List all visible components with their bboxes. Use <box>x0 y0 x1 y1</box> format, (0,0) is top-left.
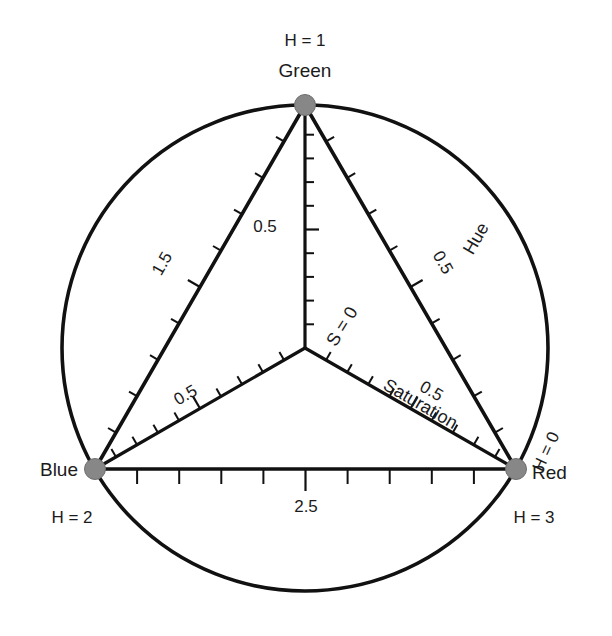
ticks-hue-blue-red <box>137 469 474 491</box>
tick-label-green-red-edge: 0.5 <box>429 248 457 278</box>
saturation-axis-label: Saturation <box>380 375 461 433</box>
vertex-dot-red <box>506 459 527 480</box>
tick-label-center-blue-axis: 0.5 <box>171 381 201 409</box>
ticks-saturation-green <box>305 135 319 325</box>
vertex-label-green: Green <box>279 60 332 81</box>
saturation-origin-label: S = 0 <box>322 303 361 350</box>
diagram-canvas: H = 1 Green Blue H = 2 Red H = 3 H = 0 S… <box>0 0 612 636</box>
tick-label-green-blue-edge: 1.5 <box>148 249 176 279</box>
vertex-label-blue: Blue <box>40 459 78 480</box>
vertex-dot-blue <box>85 459 106 480</box>
vertex-dot-green <box>295 95 316 116</box>
hue-label-green: H = 1 <box>284 31 325 50</box>
hue-label-blue: H = 2 <box>51 508 92 527</box>
ticks-saturation-blue <box>111 352 284 457</box>
hue-label-red: H = 3 <box>513 508 554 527</box>
hsv-triangle-figure: H = 1 Green Blue H = 2 Red H = 3 H = 0 S… <box>0 0 612 636</box>
ticks-hue-green-blue <box>108 137 284 433</box>
hue-axis-label: Hue <box>459 219 493 258</box>
tick-label-vertical-axis: 0.5 <box>253 217 277 236</box>
tick-label-blue-red-edge: 2.5 <box>294 497 318 516</box>
